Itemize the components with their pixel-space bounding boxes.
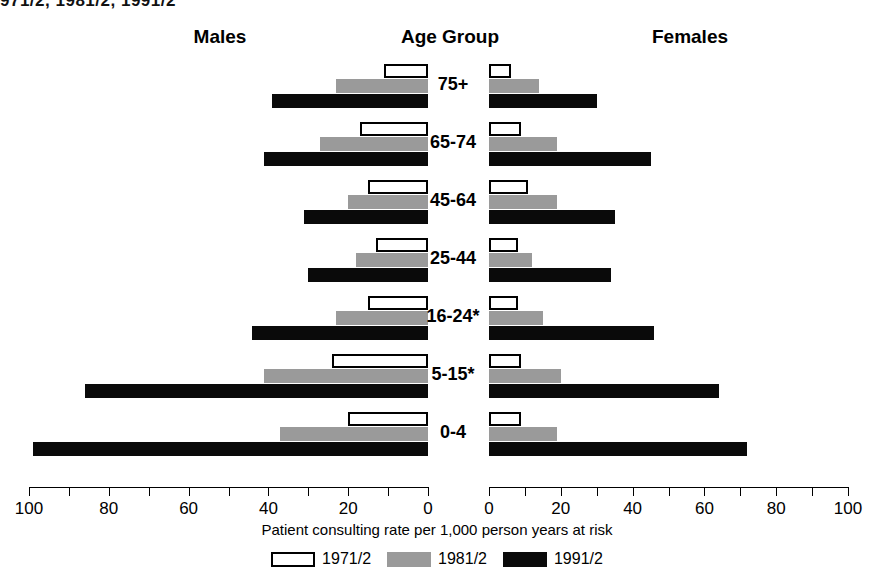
age-row: 65-74 [0, 116, 874, 174]
male-bars [29, 232, 428, 290]
tick-label-females: 100 [823, 499, 873, 519]
female-bars [489, 58, 848, 116]
tick-mark [704, 487, 705, 496]
tick-mark [29, 487, 30, 496]
age-row: 0-4 [0, 406, 874, 464]
tick-label-males: 100 [4, 499, 54, 519]
tick-mark [348, 487, 349, 496]
tick-mark [149, 487, 150, 496]
female-bars [489, 232, 848, 290]
tick-mark [189, 487, 190, 496]
age-row: 16-24* [0, 290, 874, 348]
female-bars [489, 290, 848, 348]
tick-mark [489, 487, 490, 496]
age-group-header: Age Group [350, 26, 550, 48]
legend-swatch [503, 552, 547, 567]
legend-label: 1981/2 [438, 550, 487, 568]
tick-mark [428, 487, 429, 496]
females-header: Females [580, 26, 800, 48]
legend-label: 1991/2 [554, 550, 603, 568]
bar-female-1991-2 [489, 152, 651, 166]
x-axis-title: Patient consulting rate per 1,000 person… [137, 521, 737, 538]
bar-male-1991-2 [85, 384, 428, 398]
tick-mark [388, 487, 389, 496]
males-header: Males [110, 26, 330, 48]
tick-mark [109, 487, 110, 496]
age-row: 45-64 [0, 174, 874, 232]
female-bars [489, 406, 848, 464]
female-bars [489, 348, 848, 406]
tick-label-males: 40 [243, 499, 293, 519]
tick-mark [561, 487, 562, 496]
bar-female-1991-2 [489, 210, 615, 224]
tick-label-females: 60 [679, 499, 729, 519]
age-group-label: 25-44 [398, 248, 508, 269]
tick-mark [812, 487, 813, 496]
bar-male-1991-2 [252, 326, 428, 340]
bar-female-1991-2 [489, 442, 747, 456]
tick-mark [669, 487, 670, 496]
bar-female-1991-2 [489, 94, 597, 108]
tick-mark [740, 487, 741, 496]
age-row: 75+ [0, 58, 874, 116]
legend-swatch [271, 552, 315, 567]
legend-item: 1971/2 [271, 550, 371, 568]
figure-title-clipped: 971/2, 1981/2, 1991/2 [0, 0, 400, 11]
bar-female-1991-2 [489, 268, 611, 282]
bar-male-1991-2 [304, 210, 428, 224]
legend: 1971/21981/21991/2 [0, 550, 874, 568]
tick-mark [597, 487, 598, 496]
female-bars [489, 174, 848, 232]
bar-male-1991-2 [308, 268, 428, 282]
tick-label-males: 80 [84, 499, 134, 519]
bar-male-1991-2 [272, 94, 428, 108]
tick-mark [229, 487, 230, 496]
tick-label-males: 0 [403, 499, 453, 519]
tick-mark [848, 487, 849, 496]
male-bars [29, 290, 428, 348]
tick-mark [69, 487, 70, 496]
male-bars [29, 58, 428, 116]
age-row: 5-15* [0, 348, 874, 406]
male-bars [29, 406, 428, 464]
bar-male-1991-2 [264, 152, 428, 166]
tick-label-females: 20 [536, 499, 586, 519]
tick-mark [268, 487, 269, 496]
tick-label-males: 60 [164, 499, 214, 519]
tick-label-females: 80 [751, 499, 801, 519]
female-bars [489, 116, 848, 174]
tick-label-females: 0 [464, 499, 514, 519]
age-group-label: 5-15* [398, 364, 508, 385]
tick-mark [633, 487, 634, 496]
bar-female-1991-2 [489, 384, 719, 398]
age-group-label: 45-64 [398, 190, 508, 211]
male-bars [29, 174, 428, 232]
tick-label-males: 20 [323, 499, 373, 519]
age-group-label: 16-24* [398, 306, 508, 327]
bar-male-1991-2 [33, 442, 428, 456]
bar-female-1991-2 [489, 326, 654, 340]
tick-mark [776, 487, 777, 496]
male-bars [29, 348, 428, 406]
male-bars [29, 116, 428, 174]
age-group-label: 65-74 [398, 132, 508, 153]
legend-item: 1981/2 [387, 550, 487, 568]
tick-mark [525, 487, 526, 496]
legend-swatch [387, 552, 431, 567]
tick-label-females: 40 [608, 499, 658, 519]
age-group-label: 75+ [398, 74, 508, 95]
age-group-label: 0-4 [398, 422, 508, 443]
legend-item: 1991/2 [503, 550, 603, 568]
legend-label: 1971/2 [322, 550, 371, 568]
pyramid-plot-area: 75+65-7445-6425-4416-24*5-15*0-4 [0, 58, 874, 483]
tick-mark [308, 487, 309, 496]
age-row: 25-44 [0, 232, 874, 290]
